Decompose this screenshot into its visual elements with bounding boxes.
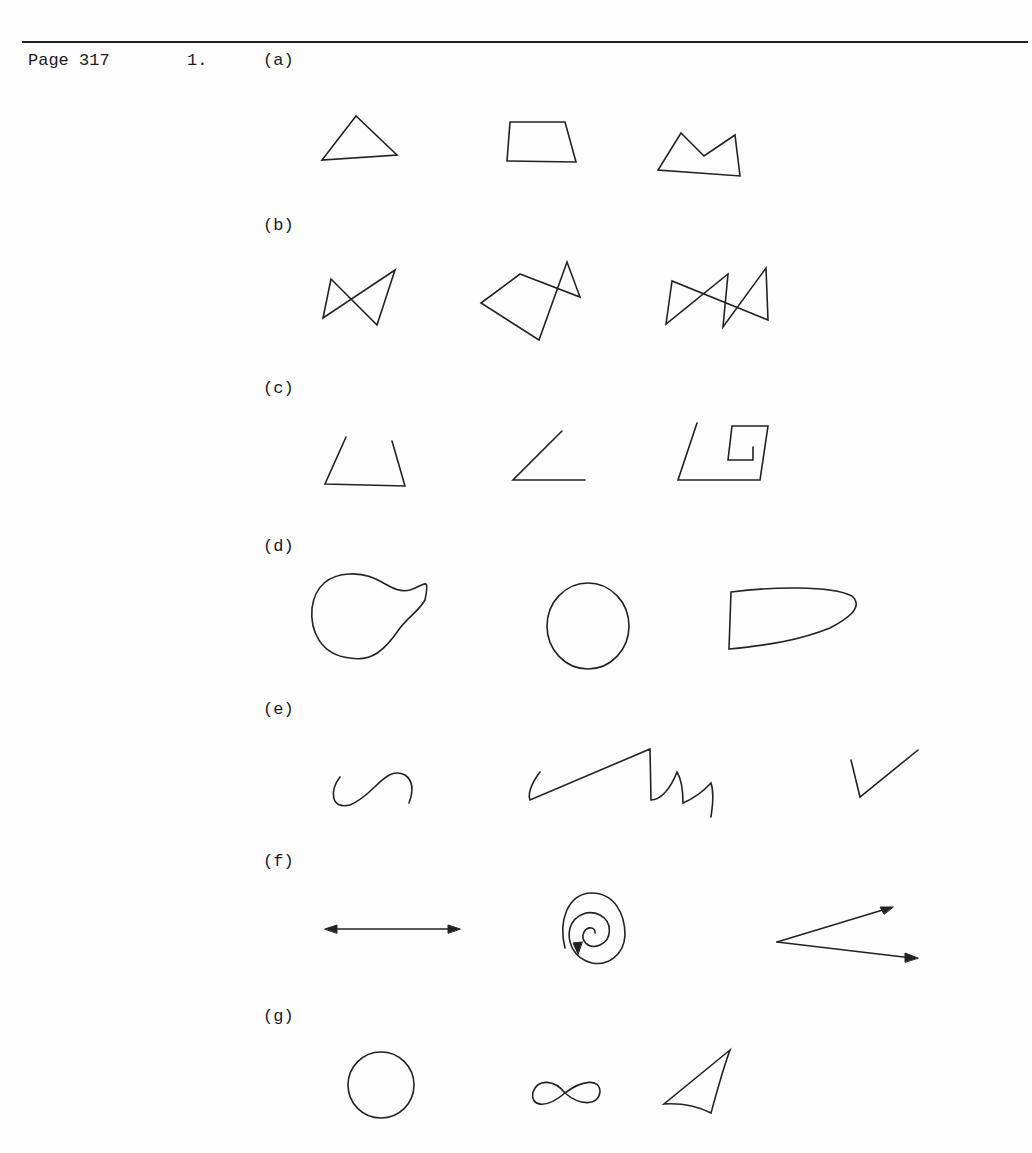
figure-e-check-mark bbox=[851, 750, 918, 797]
figure-c-spiral-polyline bbox=[678, 423, 768, 480]
figure-f-spiral bbox=[563, 893, 625, 964]
figure-a-concave-pentagon bbox=[658, 133, 740, 176]
figure-g-circle bbox=[348, 1052, 414, 1118]
figure-c-open-trapezoid bbox=[325, 437, 405, 486]
figure-e-zigzag bbox=[529, 749, 713, 817]
figure-a-trapezoid bbox=[507, 122, 576, 162]
figure-a-triangle bbox=[322, 116, 397, 160]
figure-b-self-intersecting bbox=[481, 262, 580, 340]
figure-f-double-arrow bbox=[325, 925, 460, 933]
figure-d-d-shape bbox=[729, 588, 856, 649]
figure-g-curved-triangle bbox=[664, 1050, 730, 1113]
figure-e-s-curve bbox=[333, 773, 411, 806]
figures-canvas bbox=[0, 0, 1032, 1153]
figure-d-blob bbox=[312, 574, 427, 659]
figure-b-bowtie bbox=[323, 270, 395, 325]
figure-g-figure-eight bbox=[533, 1082, 600, 1104]
figure-c-angle bbox=[513, 431, 585, 480]
figure-b-double-bowtie bbox=[666, 268, 768, 327]
figure-d-circle bbox=[547, 583, 629, 669]
figure-f-two-rays bbox=[777, 907, 918, 962]
